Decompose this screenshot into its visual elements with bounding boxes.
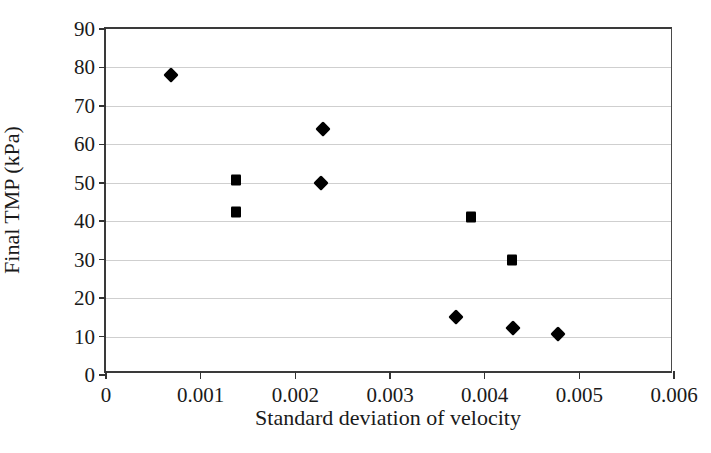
x-axis-tick <box>389 371 391 379</box>
gridline <box>106 260 671 261</box>
x-axis-tick <box>105 371 107 379</box>
x-axis-tick-label: 0.006 <box>650 383 697 408</box>
data-point-diamond <box>505 320 521 336</box>
y-axis-tick <box>99 105 106 107</box>
gridline <box>106 183 671 184</box>
x-axis-tick-label: 0.005 <box>556 383 603 408</box>
x-axis-tick <box>484 371 486 379</box>
data-point-square <box>507 255 517 266</box>
y-axis-title: Final TMP (kPa) <box>0 126 25 274</box>
y-axis-tick <box>99 336 106 338</box>
data-point-diamond <box>448 310 464 326</box>
scatter-chart-figure: Final TMP (kPa) 0102030405060708090 00.0… <box>0 0 711 453</box>
y-axis-tick <box>99 144 106 146</box>
x-axis-tick <box>295 371 297 379</box>
x-axis-tick <box>673 371 675 379</box>
x-axis-tick <box>200 371 202 379</box>
gridline <box>106 298 671 299</box>
y-axis-tick-label: 50 <box>74 170 95 195</box>
y-axis-tick <box>99 67 106 69</box>
data-point-square <box>466 212 476 223</box>
y-axis-tick <box>99 28 106 30</box>
gridline <box>106 221 671 222</box>
gridline <box>106 67 671 68</box>
y-axis-tick-label: 70 <box>74 93 95 118</box>
data-point-square <box>231 175 241 186</box>
data-point-diamond <box>550 326 566 342</box>
plot-area: 0102030405060708090 00.0010.0020.0030.00… <box>104 27 672 373</box>
y-axis-tick-label: 20 <box>74 286 95 311</box>
x-axis-title: Standard deviation of velocity <box>255 405 521 431</box>
y-axis-tick-label: 30 <box>74 247 95 272</box>
data-point-diamond <box>164 67 180 83</box>
y-axis-tick <box>99 220 106 222</box>
y-axis-tick <box>99 259 106 261</box>
y-axis-tick <box>99 182 106 184</box>
gridline <box>106 144 671 145</box>
x-axis-tick <box>579 371 581 379</box>
data-point-diamond <box>315 121 331 137</box>
data-point-diamond <box>313 175 329 191</box>
data-point-square <box>231 206 241 217</box>
y-axis-tick-label: 40 <box>74 209 95 234</box>
gridline <box>106 337 671 338</box>
y-axis-tick-label: 10 <box>74 324 95 349</box>
y-axis-tick-label: 0 <box>85 363 96 388</box>
y-axis-tick <box>99 297 106 299</box>
y-axis-tick-label: 60 <box>74 132 95 157</box>
gridline <box>106 106 671 107</box>
y-axis-tick-label: 80 <box>74 55 95 80</box>
y-axis-tick-label: 90 <box>74 17 95 42</box>
x-axis-tick-label: 0 <box>101 383 112 408</box>
x-axis-tick-label: 0.001 <box>177 383 224 408</box>
